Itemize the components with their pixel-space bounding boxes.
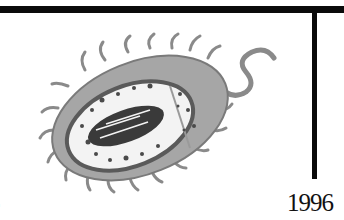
timeline-year-label: 1996: [287, 189, 333, 217]
timeline-top-rule: [0, 6, 344, 13]
bacterium-illustration: [30, 30, 290, 200]
timeline-label-left: 5: [0, 189, 1, 217]
timeline-tick-line: [312, 10, 317, 179]
